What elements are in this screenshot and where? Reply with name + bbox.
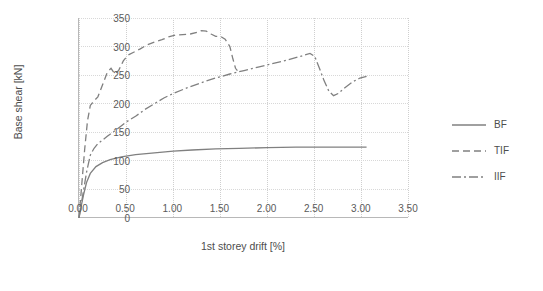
y-tick-label: 200 bbox=[113, 98, 130, 109]
legend-swatch-bf-icon bbox=[452, 120, 486, 130]
y-tick-label: 0 bbox=[124, 213, 130, 224]
x-tick-label: 0.50 bbox=[115, 203, 134, 214]
legend-swatch-iif-icon bbox=[452, 172, 486, 182]
chart-container: 050100150200250300350 0.000.501.001.502.… bbox=[0, 0, 543, 291]
legend-swatch-tif-icon bbox=[452, 146, 486, 156]
legend-label: TIF bbox=[494, 146, 509, 156]
x-tick-label: 3.00 bbox=[351, 203, 370, 214]
y-axis-title: Base shear [kN] bbox=[12, 22, 24, 182]
x-axis-title: 1st storey drift [%] bbox=[78, 240, 408, 252]
y-tick-label: 50 bbox=[119, 184, 130, 195]
legend-item-bf[interactable]: BF bbox=[452, 112, 509, 138]
legend-label: IIF bbox=[494, 172, 506, 182]
x-tick-label: 3.50 bbox=[398, 203, 417, 214]
legend-item-iif[interactable]: IIF bbox=[452, 164, 509, 190]
chart-legend: BFTIFIIF bbox=[452, 112, 509, 190]
x-tick-label: 2.50 bbox=[304, 203, 323, 214]
y-tick-label: 300 bbox=[113, 41, 130, 52]
legend-label: BF bbox=[494, 120, 507, 130]
x-tick-label: 0.00 bbox=[68, 203, 87, 214]
x-tick-label: 1.00 bbox=[163, 203, 182, 214]
y-tick-label: 350 bbox=[113, 13, 130, 24]
y-tick-label: 250 bbox=[113, 70, 130, 81]
y-tick-label: 100 bbox=[113, 155, 130, 166]
x-tick-label: 1.50 bbox=[210, 203, 229, 214]
legend-item-tif[interactable]: TIF bbox=[452, 138, 509, 164]
series-line-tif bbox=[79, 31, 237, 218]
y-tick-label: 150 bbox=[113, 127, 130, 138]
x-tick-label: 2.00 bbox=[257, 203, 276, 214]
